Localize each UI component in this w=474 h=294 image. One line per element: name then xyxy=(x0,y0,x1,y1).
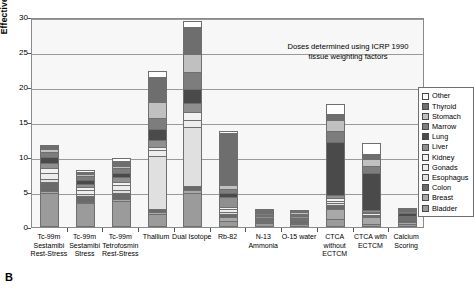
legend-label: Breast xyxy=(432,194,453,201)
legend-swatch xyxy=(422,123,429,130)
bar-slot xyxy=(211,19,247,227)
y-tick-label: 10 xyxy=(4,154,28,162)
bar-segment-lung xyxy=(327,143,344,196)
bar-segment-gonads xyxy=(184,121,201,128)
bar-segment-bladder xyxy=(184,194,201,226)
bar-segment-stomach xyxy=(149,103,166,119)
bar-segment-marrow xyxy=(184,73,201,89)
y-tick-mark xyxy=(27,228,31,229)
bar-slot xyxy=(68,19,104,227)
stacked-bar[interactable] xyxy=(76,170,95,227)
legend-item-kidney[interactable]: Kidney xyxy=(422,152,469,162)
legend-item-stomach[interactable]: Stomach xyxy=(422,111,469,121)
bar-segment-lung xyxy=(363,174,380,210)
x-axis-label-line: ECTCM xyxy=(304,250,366,259)
x-axis-label-line: Scoring xyxy=(375,242,437,251)
x-axis-label-line: Tetrofosmin xyxy=(89,242,151,251)
x-tick-mark xyxy=(174,228,175,232)
legend-item-gonads[interactable]: Gonads xyxy=(422,162,469,172)
legend-item-marrow[interactable]: Marrow xyxy=(422,122,469,132)
legend-label: Bladder xyxy=(432,205,457,212)
bar-segment-lung xyxy=(149,130,166,141)
bar-segment-stomach xyxy=(184,55,201,73)
bar-segment-thyroid xyxy=(149,78,166,103)
x-tick-mark xyxy=(388,228,389,232)
bar-segment-other xyxy=(327,105,344,115)
legend-item-breast[interactable]: Breast xyxy=(422,193,469,203)
bar-segment-bladder xyxy=(256,224,273,226)
bar-segment-bladder xyxy=(77,204,94,226)
y-tick-label: 15 xyxy=(4,119,28,127)
legend-label: Other xyxy=(432,92,450,99)
legend: OtherThyroidStomachMarrowLungLiverKidney… xyxy=(418,87,474,217)
bar-segment-bladder xyxy=(113,202,130,226)
bar-segment-marrow xyxy=(363,167,380,174)
x-axis-label-line: Rest-Stress xyxy=(89,250,151,259)
bar-slot xyxy=(139,19,175,227)
stacked-bar[interactable] xyxy=(255,209,274,227)
bar-segment-esophagus xyxy=(149,157,166,210)
y-tick-label: 0 xyxy=(4,224,28,232)
bar-segment-stomach xyxy=(363,160,380,168)
annotation-line-1: Doses determined using ICRP 1990 xyxy=(260,42,436,52)
stacked-bar[interactable] xyxy=(362,143,381,228)
legend-item-liver[interactable]: Liver xyxy=(422,142,469,152)
legend-swatch xyxy=(422,113,429,120)
x-tick-mark xyxy=(281,228,282,232)
legend-swatch xyxy=(422,133,429,140)
bar-segment-liver xyxy=(149,141,166,148)
bar-segment-stomach xyxy=(327,121,344,132)
legend-swatch xyxy=(422,154,429,161)
legend-label: Esophagus xyxy=(432,174,469,181)
bar-slot xyxy=(175,19,211,227)
legend-label: Thyroid xyxy=(432,103,456,110)
legend-swatch xyxy=(422,144,429,151)
bar-segment-bladder xyxy=(149,215,166,226)
legend-label: Gonads xyxy=(432,164,458,171)
legend-swatch xyxy=(422,194,429,201)
bar-segment-liver xyxy=(220,198,237,208)
bar-slot xyxy=(103,19,139,227)
legend-item-esophagus[interactable]: Esophagus xyxy=(422,173,469,183)
stacked-bar[interactable] xyxy=(290,210,309,227)
legend-label: Kidney xyxy=(432,154,454,161)
bar-segment-bladder xyxy=(399,225,416,226)
legend-label: Lung xyxy=(432,133,448,140)
annotation-line-2: tissue weighting factors xyxy=(260,52,436,62)
plot-area: Doses determined using ICRP 1990 tissue … xyxy=(31,18,424,228)
stacked-bar[interactable] xyxy=(148,71,167,227)
stacked-bar[interactable] xyxy=(183,21,202,227)
legend-label: Marrow xyxy=(432,123,456,130)
bar-segment-lung xyxy=(184,90,201,105)
y-tick-label: 25 xyxy=(4,49,28,57)
legend-item-colon[interactable]: Colon xyxy=(422,183,469,193)
legend-item-bladder[interactable]: Bladder xyxy=(422,203,469,213)
bar-segment-thyroid xyxy=(184,28,201,55)
bar-segment-kidney xyxy=(184,113,201,121)
stacked-bar[interactable] xyxy=(398,208,417,227)
bar-segment-bladder xyxy=(220,222,237,226)
bar-segment-bladder xyxy=(363,225,380,226)
bar-slot xyxy=(32,19,68,227)
x-tick-mark xyxy=(102,228,103,232)
bar-segment-other xyxy=(363,144,380,156)
legend-item-thyroid[interactable]: Thyroid xyxy=(422,101,469,111)
x-tick-mark xyxy=(317,228,318,232)
legend-label: Liver xyxy=(432,143,448,150)
bar-segment-breast xyxy=(327,210,344,221)
legend-item-lung[interactable]: Lung xyxy=(422,132,469,142)
x-axis-label-line: Calcium xyxy=(375,233,437,242)
legend-label: Stomach xyxy=(432,113,461,120)
legend-swatch xyxy=(422,205,429,212)
stacked-bar[interactable] xyxy=(219,131,238,227)
bar-segment-thyroid xyxy=(220,134,237,187)
stacked-bar[interactable] xyxy=(326,104,345,227)
stacked-bar[interactable] xyxy=(40,145,59,227)
legend-swatch xyxy=(422,93,429,100)
stacked-bar[interactable] xyxy=(112,158,131,227)
x-tick-mark xyxy=(353,228,354,232)
bar-segment-bladder xyxy=(291,225,308,226)
bar-segment-colon xyxy=(41,183,58,191)
legend-item-other[interactable]: Other xyxy=(422,91,469,101)
